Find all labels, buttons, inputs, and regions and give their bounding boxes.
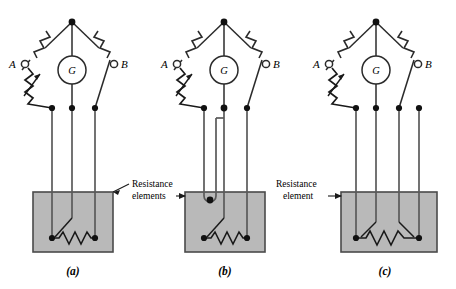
terminal-b-label-a: B <box>121 58 128 70</box>
galvanometer-label-c: G <box>372 65 380 76</box>
element-terminal-a-right <box>92 235 98 241</box>
element-terminal-b-left <box>201 235 207 241</box>
bridge-top-node-a <box>69 19 76 26</box>
terminal-b-label-c: B <box>425 58 432 70</box>
galvanometer-label-b: G <box>220 65 228 76</box>
bridge-bottom-node-a-1 <box>49 105 55 111</box>
resistance-element-box-b <box>185 192 265 252</box>
terminal-b-node-a <box>110 60 117 67</box>
element-terminal-c-left <box>353 235 359 241</box>
bridge-top-node-c <box>373 19 380 26</box>
element-terminal-c-right <box>416 235 422 241</box>
terminal-a-node-b <box>173 60 180 67</box>
bridge-bottom-node-b-2 <box>221 105 228 112</box>
bridge-top-node-b <box>221 19 228 26</box>
annotation-c-line1: Resistance <box>276 179 317 189</box>
bridge-bottom-node-c-4 <box>416 105 422 111</box>
element-terminal-b-right <box>244 235 250 241</box>
terminal-a-node-c <box>325 60 332 67</box>
figure-canvas: G A B (a) <box>0 0 456 289</box>
terminal-a-label-b: A <box>160 58 168 70</box>
bridge-bottom-node-c-3 <box>396 105 402 111</box>
panel-caption-b: (b) <box>218 265 232 278</box>
resistance-element-box-a <box>33 192 113 252</box>
bridge-bottom-node-c-1 <box>353 105 359 111</box>
panel-caption-a: (a) <box>66 265 80 278</box>
element-loop-node-b <box>207 197 214 204</box>
wheatstone-bridge-figure: G A B (a) <box>0 0 456 289</box>
bridge-bottom-node-c-2 <box>373 105 379 111</box>
bridge-bottom-node-a-2 <box>69 105 75 111</box>
element-terminal-a-left <box>49 235 55 241</box>
terminal-a-label-a: A <box>8 58 16 70</box>
bridge-bottom-node-a-3 <box>92 105 98 111</box>
terminal-b-label-b: B <box>273 58 280 70</box>
annotation-ab-line1: Resistance <box>132 179 173 189</box>
terminal-b-node-c <box>414 60 421 67</box>
terminal-b-node-b <box>262 60 269 67</box>
panel-caption-c: (c) <box>379 265 392 278</box>
bridge-bottom-node-b-1 <box>201 105 207 111</box>
galvanometer-label-a: G <box>68 65 76 76</box>
annotation-ab-line2: elements <box>132 191 166 201</box>
terminal-a-label-c: A <box>312 58 320 70</box>
bridge-bottom-node-b-3 <box>244 105 250 111</box>
annotation-c-line2: element <box>283 191 313 201</box>
terminal-a-node-a <box>21 60 28 67</box>
